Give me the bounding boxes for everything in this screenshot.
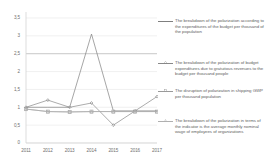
legend-line [158, 21, 173, 22]
y-tick-label: 2 [6, 69, 20, 74]
legend-item-0[interactable]: The breakdown of the polarization accord… [158, 18, 268, 35]
legend-swatch-icon [158, 118, 173, 125]
y-tick-label: 1,5 [6, 87, 20, 92]
y-tick-label: 1 [6, 105, 20, 110]
legend-marker-icon [164, 119, 167, 122]
chart-screenshot: 00,511,522,533,5 20112012201320142015201… [0, 0, 268, 165]
y-tick-label: 3 [6, 33, 20, 38]
legend-item-1[interactable]: The breakdown of the polarization of bud… [158, 60, 268, 77]
series-line-0 [26, 34, 157, 111]
legend-swatch-icon [158, 18, 173, 25]
x-tick-label: 2011 [17, 148, 35, 153]
x-tick-label: 2012 [39, 148, 57, 153]
data-point-marker [164, 120, 166, 122]
y-tick-label: 3,5 [6, 15, 20, 20]
legend-swatch-icon [158, 88, 173, 95]
legend-marker-icon [164, 61, 167, 64]
line-chart-svg [0, 0, 158, 165]
x-tick-label: 2016 [126, 148, 144, 153]
legend-label: The disruption of polarization in shippi… [175, 88, 267, 99]
legend-label: The breakdown of the polarization of bud… [175, 60, 267, 77]
y-tick-label: 2,5 [6, 51, 20, 56]
y-tick-label: 0 [6, 140, 20, 145]
x-tick-label: 2014 [83, 148, 101, 153]
legend-marker-icon [164, 89, 167, 92]
legend-item-3[interactable]: The breakdown of the polarization in ter… [158, 118, 268, 135]
data-point-marker [164, 62, 166, 64]
legend-swatch-icon [158, 60, 173, 67]
chart-legend: The breakdown of the polarization accord… [158, 0, 268, 165]
chart-plot-area: 00,511,522,533,5 20112012201320142015201… [0, 0, 158, 165]
data-point-marker [164, 90, 166, 92]
x-tick-label: 2013 [61, 148, 79, 153]
y-tick-label: 0,5 [6, 123, 20, 128]
legend-label: The breakdown of the polarization accord… [175, 18, 267, 35]
legend-item-2[interactable]: The disruption of polarization in shippi… [158, 88, 268, 99]
x-tick-label: 2015 [104, 148, 122, 153]
legend-label: The breakdown of the polarization in ter… [175, 118, 267, 135]
